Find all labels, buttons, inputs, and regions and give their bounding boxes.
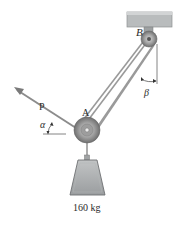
- label-alpha: α: [40, 119, 46, 130]
- pulley-a: [74, 117, 100, 143]
- label-mass: 160 kg: [73, 202, 101, 213]
- angle-alpha-marker: [43, 122, 66, 135]
- pulley-diagram: B A P α β 160 kg: [0, 0, 177, 247]
- pulley-b: [141, 31, 157, 47]
- label-pulley-b: B: [136, 26, 143, 38]
- weight-160kg: [70, 155, 105, 195]
- label-beta: β: [143, 87, 149, 98]
- label-force-p: P: [39, 101, 45, 112]
- label-pulley-a: A: [82, 107, 90, 118]
